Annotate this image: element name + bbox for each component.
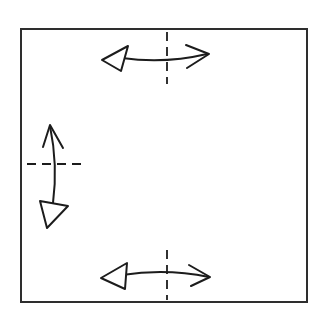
diagram-svg [0, 0, 328, 323]
square-frame [21, 29, 307, 302]
diagram-canvas [0, 0, 328, 323]
left-double-arrow [27, 125, 81, 228]
bottom-double-arrow [101, 250, 210, 300]
bottom-arrow-closed-head-left-icon [101, 263, 127, 289]
left-arrow-closed-head-down-icon [40, 201, 68, 228]
bottom-arrow-curve [122, 272, 209, 277]
top-double-arrow [102, 32, 209, 84]
top-arrow-closed-head-left-icon [102, 46, 128, 71]
top-arrow-curve [122, 54, 207, 60]
